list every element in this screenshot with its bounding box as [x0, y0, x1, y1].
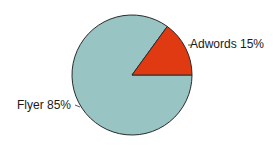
- label-adwords: Adwords 15%: [190, 37, 264, 51]
- leader-line-flyer: [75, 105, 80, 107]
- pie-chart: [0, 0, 280, 145]
- label-flyer: Flyer 85%: [17, 98, 71, 112]
